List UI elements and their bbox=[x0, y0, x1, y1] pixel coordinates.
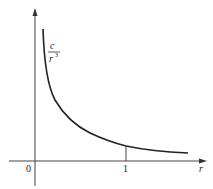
tick-label-1: 1 bbox=[123, 163, 128, 174]
curve-c-over-r-cubed bbox=[43, 29, 188, 153]
x-axis-label: r bbox=[199, 163, 203, 174]
graph-c-over-r-cubed: c r 3 0 1 r bbox=[0, 0, 213, 189]
origin-label: 0 bbox=[26, 163, 31, 174]
curve-label-denominator: r bbox=[49, 53, 53, 64]
curve-label-exponent: 3 bbox=[55, 52, 58, 58]
curve-label-numerator: c bbox=[50, 40, 55, 51]
y-axis-arrow-icon bbox=[33, 8, 38, 16]
